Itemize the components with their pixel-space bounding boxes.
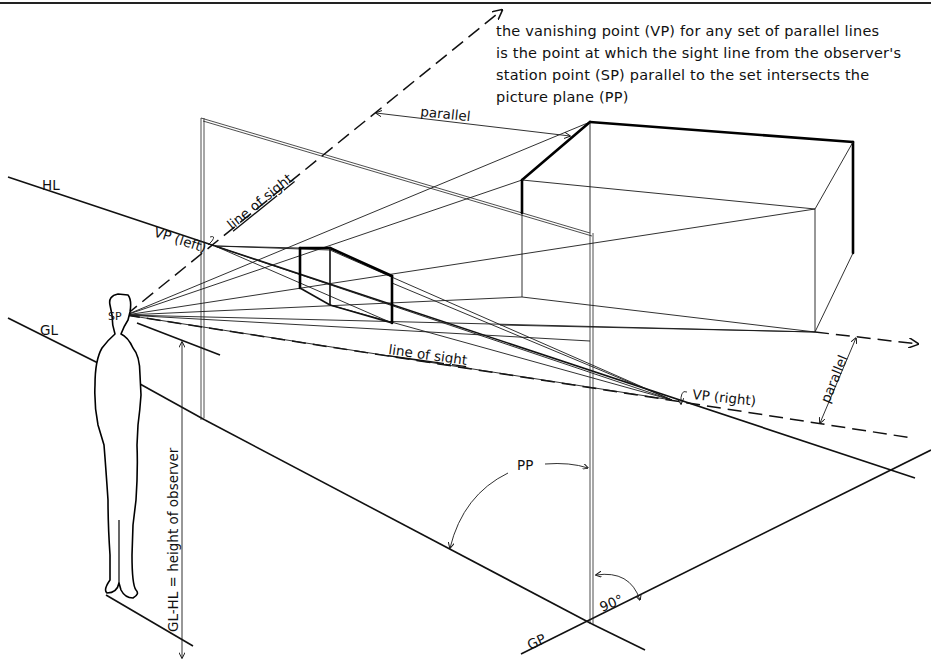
note-line-2: is the point at which the sight line fro… [496,45,901,61]
ground-plane-label: GP [525,630,549,652]
observer-figure [95,294,141,598]
parallel-right-label: parallel [817,353,851,406]
vp-left-projectors [215,246,672,400]
line-of-sight-lower-label: line of sight [388,341,469,368]
horizon-line-right [215,246,915,478]
projected-box [300,248,392,323]
vp-definition-note: the vanishing point (VP) for any set of … [496,23,901,105]
right-angle-label: 90° [597,591,625,615]
picture-plane-top-2 [203,121,592,236]
ground-line-label: GL [40,322,58,338]
station-point-label: SP [108,310,122,323]
note-line-3: station point (SP) parallel to the set i… [496,67,869,83]
pp-arc-to-ground [450,473,508,548]
line-of-sight-upper [126,10,502,315]
ground-line-far [205,420,592,624]
ground-line-mid [140,384,205,420]
parallel-arrow-top [376,113,570,136]
horizon-line-label: HL [42,177,60,193]
picture-plane-top [201,118,590,233]
sight-lines [126,122,815,400]
note-line-4: picture plane (PP) [496,89,629,105]
box-base-extension [815,332,918,344]
pp-arrow-to-plane [545,464,588,469]
note-line-1: the vanishing point (VP) for any set of … [496,23,879,39]
vp-right-label: VP (right) [692,386,757,409]
line-of-sight-upper-label: line of sight [224,170,296,232]
ground-plane-line [521,450,931,654]
real-box [500,122,853,332]
parallel-top-label: parallel [420,103,472,124]
perspective-diagram: the vanishing point (VP) for any set of … [0,0,931,665]
vp-left-label: VP (left) [152,224,208,256]
ground-plane-cross [592,624,645,650]
observer-height-label: GL-HL = height of observer [165,447,181,632]
picture-plane-label: PP [517,457,533,473]
